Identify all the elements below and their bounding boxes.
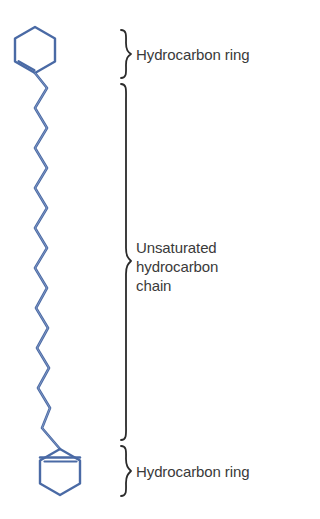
label-hydrocarbon-ring-top: Hydrocarbon ring	[136, 45, 249, 64]
label-chain-line-1: Unsaturated	[136, 239, 217, 256]
label-chain-line-2: hydrocarbon	[136, 258, 218, 275]
label-chain-line-3: chain	[136, 277, 171, 294]
label-hydrocarbon-ring-bottom: Hydrocarbon ring	[136, 462, 249, 481]
label-unsaturated-hydrocarbon-chain: Unsaturated hydrocarbon chain	[136, 238, 218, 295]
